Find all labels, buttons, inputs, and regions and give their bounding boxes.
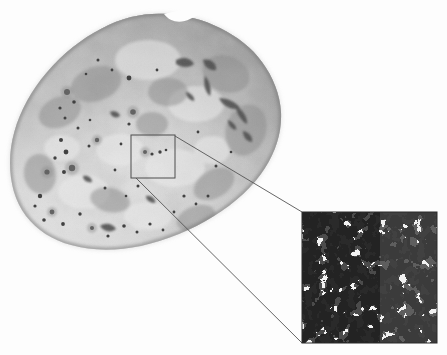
figure-canvas	[0, 0, 447, 355]
figure-root: Grayscale specimen photograph with magni…	[0, 0, 447, 355]
magnified-microstructure-inset[interactable]	[302, 212, 437, 343]
inset-density-gradient	[380, 212, 437, 343]
